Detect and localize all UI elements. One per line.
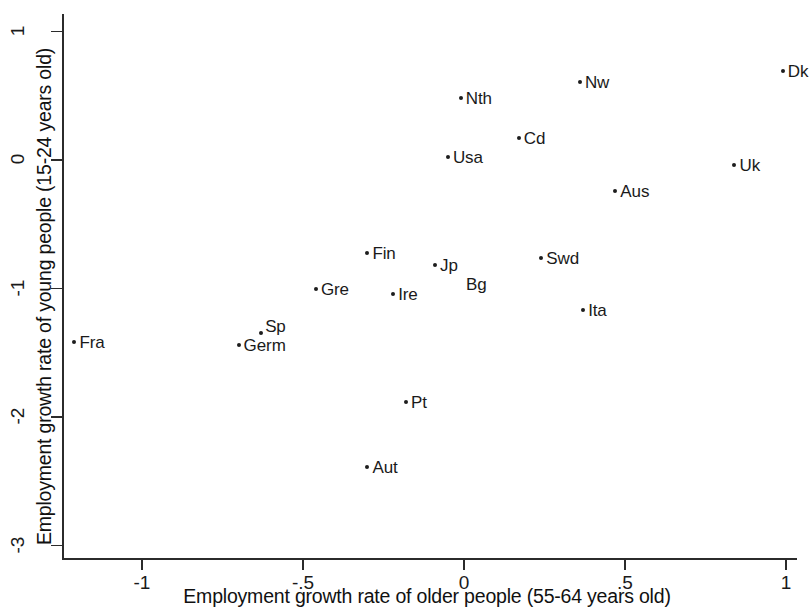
- scatter-point-label: Usa: [453, 148, 483, 168]
- x-tick-label: -.5: [273, 572, 333, 594]
- scatter-point-marker[interactable]: [581, 308, 585, 312]
- scatter-point-marker[interactable]: [259, 331, 263, 335]
- x-tick-label: 0: [434, 572, 494, 594]
- scatter-point-label: Swd: [546, 249, 579, 269]
- x-tick-mark: [463, 559, 465, 570]
- x-tick-mark: [141, 559, 143, 570]
- scatter-point-label: Nth: [466, 89, 492, 109]
- scatter-point-label: Ire: [398, 285, 418, 305]
- scatter-point-label: Aut: [372, 458, 397, 478]
- y-tick-mark: [51, 31, 62, 33]
- scatter-point-marker[interactable]: [539, 256, 543, 260]
- scatter-point-label: Jp: [440, 256, 458, 276]
- scatter-point-label: Uk: [739, 156, 760, 176]
- plot-area: FraGermSpGreFinAutIrePtJpBgUsaNthCdSwdNw…: [62, 14, 797, 559]
- x-tick-label: .5: [595, 572, 655, 594]
- scatter-point-marker[interactable]: [517, 136, 521, 140]
- scatter-point-label: Sp: [265, 317, 286, 337]
- scatter-point-label: Germ: [244, 336, 286, 356]
- scatter-point-marker[interactable]: [365, 465, 369, 469]
- scatter-point-marker[interactable]: [404, 400, 408, 404]
- y-tick-mark: [51, 416, 62, 418]
- scatter-point-label: Pt: [411, 393, 427, 413]
- y-tick-mark: [51, 545, 62, 547]
- scatter-point-label: Fin: [372, 244, 395, 264]
- scatter-point-marker[interactable]: [72, 340, 76, 344]
- y-tick-label: -2: [7, 386, 29, 446]
- scatter-point-marker[interactable]: [781, 69, 785, 73]
- scatter-point-label: Ita: [588, 301, 607, 321]
- scatter-point-label: Fra: [79, 333, 104, 353]
- x-tick-mark: [785, 559, 787, 570]
- scatter-point-marker[interactable]: [391, 292, 395, 296]
- x-tick-mark: [624, 559, 626, 570]
- y-tick-label: 0: [7, 129, 29, 189]
- scatter-point-marker[interactable]: [237, 343, 241, 347]
- scatter-point-label: Gre: [321, 280, 349, 300]
- scatter-point-label: Bg: [466, 275, 487, 295]
- scatter-point-marker[interactable]: [732, 163, 736, 167]
- scatter-chart-figure: Employment growth rate of young people (…: [0, 0, 810, 613]
- y-tick-label: -3: [7, 515, 29, 575]
- y-tick-label: 1: [7, 1, 29, 61]
- scatter-point-label: Nw: [585, 73, 609, 93]
- y-axis-title: Employment growth rate of young people (…: [33, 7, 56, 587]
- scatter-point-marker[interactable]: [365, 251, 369, 255]
- x-tick-label: -1: [112, 572, 172, 594]
- y-tick-mark: [51, 288, 62, 290]
- scatter-point-label: Dk: [788, 62, 809, 82]
- y-tick-label: -1: [7, 258, 29, 318]
- scatter-point-marker[interactable]: [613, 189, 617, 193]
- scatter-point-label: Cd: [524, 129, 546, 149]
- scatter-point-label: Aus: [620, 182, 649, 202]
- scatter-point-marker[interactable]: [314, 287, 318, 291]
- scatter-point-marker[interactable]: [446, 155, 450, 159]
- y-tick-mark: [51, 159, 62, 161]
- scatter-point-marker[interactable]: [433, 263, 437, 267]
- scatter-point-marker[interactable]: [459, 96, 463, 100]
- x-tick-label: 1: [756, 572, 810, 594]
- scatter-point-marker[interactable]: [578, 80, 582, 84]
- x-tick-mark: [302, 559, 304, 570]
